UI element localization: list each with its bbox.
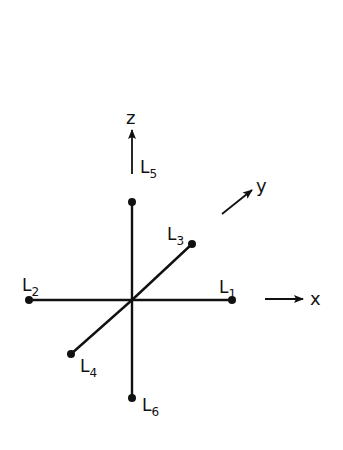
endpoint-dot-L5 xyxy=(128,198,136,206)
z-axis-label: z xyxy=(126,107,135,128)
label-L5: L5 xyxy=(140,157,157,181)
leg-L3 xyxy=(132,244,192,300)
endpoint-dot-L6 xyxy=(128,394,136,402)
legs xyxy=(29,202,232,398)
y-axis-label: y xyxy=(256,175,267,196)
label-L2: L2 xyxy=(22,275,39,299)
label-L4: L4 xyxy=(80,356,97,380)
label-L3: L3 xyxy=(167,224,184,248)
label-L1: L1 xyxy=(219,277,236,301)
coordinate-diagram: L1 L2 L3 L4 L5 L6 x y z xyxy=(0,0,343,450)
label-L6: L6 xyxy=(142,395,159,419)
x-axis-label: x xyxy=(310,288,321,309)
endpoint-dot-L3 xyxy=(188,240,196,248)
y-axis-arrow-icon xyxy=(222,190,252,214)
leg-L4 xyxy=(71,300,132,354)
axis-arrows xyxy=(132,130,303,299)
endpoint-dot-L4 xyxy=(67,350,75,358)
